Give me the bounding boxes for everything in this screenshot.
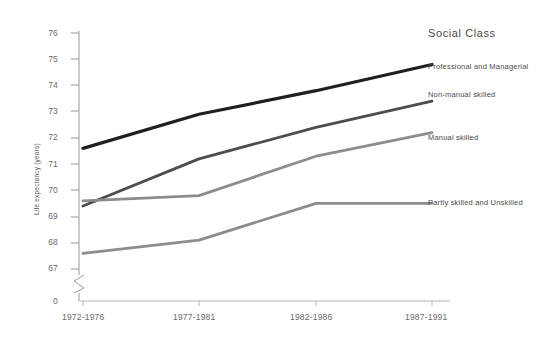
legend-label-non-manual-skilled: Non-manual skilled (428, 90, 495, 99)
series-line-partly-skilled-and-unskilled (83, 203, 432, 253)
series-line-professional-and-managerial (83, 64, 432, 148)
x-tick-marks (83, 301, 432, 306)
legend-label-manual-skilled: Manual skilled (428, 133, 478, 142)
axis-break-icon (74, 275, 84, 293)
legend-label-professional-and-managerial: Professional and Managerial (428, 62, 528, 71)
life-expectancy-line-chart: Life expectancy (years) 76 75 74 73 72 7… (0, 0, 553, 342)
series-layer (83, 64, 432, 253)
legend-title: Social Class (428, 27, 496, 39)
y-tick-marks (71, 33, 79, 269)
legend-label-partly-skilled-and-unskilled: Partly skilled and Unskilled (428, 198, 523, 207)
series-line-non-manual-skilled (83, 101, 432, 206)
plot-area (0, 0, 553, 342)
